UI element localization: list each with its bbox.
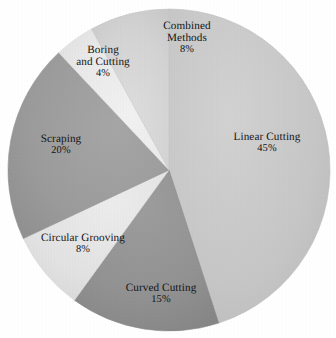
- pie-label-scraping-value: 20%: [11, 145, 111, 156]
- pie-label-combined-methods-value: 8%: [137, 44, 237, 55]
- pie-label-combined-methods-name-line2: Methods: [137, 32, 237, 44]
- pie-label-linear-cutting-name: Linear Cutting: [208, 131, 326, 143]
- pie-label-combined-methods-name-line1: Combined: [137, 20, 237, 32]
- pie-label-combined-methods: Combined Methods 8%: [137, 20, 237, 55]
- pie-label-boring-and-cutting-name-line2: and Cutting: [51, 56, 155, 68]
- pie-label-curved-cutting-value: 15%: [100, 294, 222, 305]
- pie-label-curved-cutting-name: Curved Cutting: [100, 282, 222, 294]
- pie-label-circular-grooving-value: 8%: [18, 244, 148, 255]
- pie-chart-figure: Linear Cutting 45% Curved Cutting 15% Ci…: [0, 0, 336, 338]
- pie-label-scraping-name: Scraping: [11, 133, 111, 145]
- pie-label-scraping: Scraping 20%: [11, 133, 111, 156]
- pie-label-boring-and-cutting-value: 4%: [51, 68, 155, 79]
- pie-label-linear-cutting-value: 45%: [208, 143, 326, 154]
- pie-label-circular-grooving-name: Circular Grooving: [18, 232, 148, 244]
- pie-label-linear-cutting: Linear Cutting 45%: [208, 131, 326, 154]
- pie-label-curved-cutting: Curved Cutting 15%: [100, 282, 222, 305]
- pie-label-circular-grooving: Circular Grooving 8%: [18, 232, 148, 255]
